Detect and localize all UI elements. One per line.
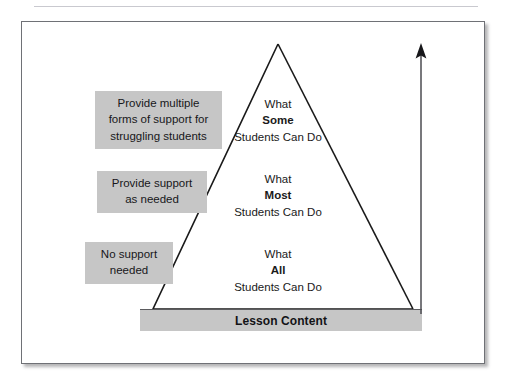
tier-some-line3: Students Can Do xyxy=(198,129,358,145)
tier-some-emphasis: Some xyxy=(198,112,358,128)
page-running-header xyxy=(0,0,512,9)
tier-most-emphasis: Most xyxy=(198,187,358,203)
tier-most: What Most Students Can Do xyxy=(198,171,358,220)
base-bar-lesson-content: Lesson Content xyxy=(140,309,422,331)
tier-all-line3: Students Can Do xyxy=(198,279,358,295)
support-box-multiple-forms-line3: struggling students xyxy=(102,128,215,144)
figure-frame: What Some Students Can Do What Most Stud… xyxy=(21,21,485,364)
page-header-divider xyxy=(34,6,478,7)
tier-all-line1: What xyxy=(198,246,358,262)
support-box-as-needed-line2: as needed xyxy=(104,191,200,207)
tier-all: What All Students Can Do xyxy=(198,246,358,295)
support-box-multiple-forms: Provide multiple forms of support for st… xyxy=(95,91,222,149)
support-box-multiple-forms-line2: forms of support for xyxy=(102,111,215,127)
tier-all-emphasis: All xyxy=(198,262,358,278)
support-box-no-support-line2: needed xyxy=(92,262,166,278)
support-box-no-support-line1: No support xyxy=(92,246,166,262)
support-box-as-needed: Provide support as needed xyxy=(97,171,207,213)
figure-canvas: What Some Students Can Do What Most Stud… xyxy=(22,22,484,363)
arrow-up-icon xyxy=(408,38,434,316)
tier-most-line3: Students Can Do xyxy=(198,204,358,220)
base-bar-label: Lesson Content xyxy=(235,314,327,328)
tier-most-line1: What xyxy=(198,171,358,187)
tier-some-line1: What xyxy=(198,96,358,112)
support-box-multiple-forms-line1: Provide multiple xyxy=(102,95,215,111)
tier-some: What Some Students Can Do xyxy=(198,96,358,145)
support-box-no-support: No support needed xyxy=(85,242,173,284)
support-box-as-needed-line1: Provide support xyxy=(104,175,200,191)
